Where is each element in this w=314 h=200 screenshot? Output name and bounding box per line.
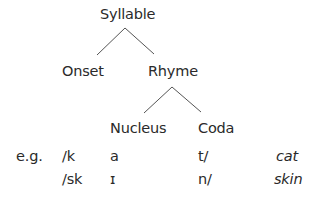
example-2-word: skin	[274, 171, 302, 187]
node-nucleus: Nucleus	[110, 120, 166, 136]
example-1-word: cat	[276, 148, 298, 164]
node-syllable: Syllable	[100, 6, 155, 22]
example-1-onset: /k	[62, 148, 75, 164]
edge-syllable-onset	[97, 28, 125, 55]
example-2-coda: n/	[198, 171, 212, 187]
example-prefix: e.g.	[16, 148, 43, 164]
node-onset: Onset	[62, 63, 104, 79]
edge-syllable-rhyme	[125, 28, 154, 54]
node-coda: Coda	[198, 120, 234, 136]
edge-rhyme-nucleus	[144, 87, 172, 113]
example-1-nucleus: a	[110, 148, 119, 164]
node-rhyme: Rhyme	[148, 63, 198, 79]
tree-lines	[0, 0, 314, 200]
edge-rhyme-coda	[172, 87, 201, 112]
example-2-nucleus: ɪ	[110, 171, 115, 187]
example-1-coda: t/	[198, 148, 208, 164]
example-2-onset: /sk	[62, 171, 82, 187]
